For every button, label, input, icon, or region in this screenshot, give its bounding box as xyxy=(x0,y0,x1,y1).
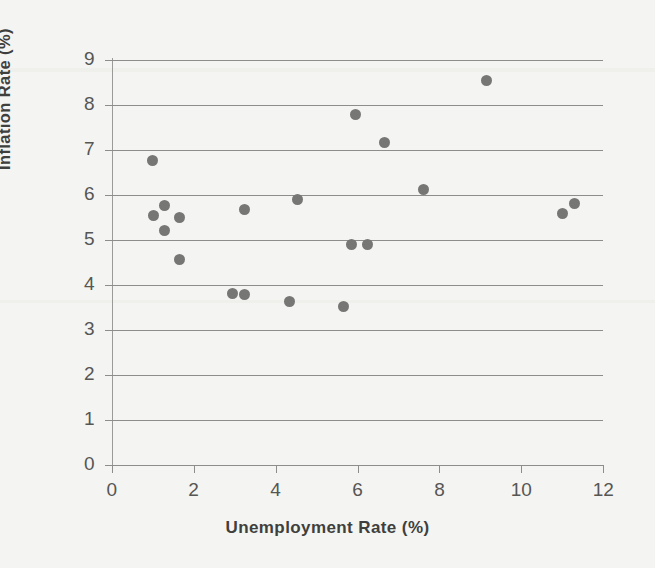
y-tick-label: 9 xyxy=(67,48,95,70)
data-point xyxy=(379,137,390,148)
gridline-y-4 xyxy=(112,285,604,286)
data-point xyxy=(239,289,250,300)
y-tick-label: 8 xyxy=(67,93,95,115)
y-tick-label: 1 xyxy=(67,408,95,430)
y-tick-label: 0 xyxy=(67,453,95,475)
gridline-y-8 xyxy=(112,105,604,106)
y-tick-4 xyxy=(105,285,112,286)
y-tick-label: 2 xyxy=(67,363,95,385)
x-axis-title: Unemployment Rate (%) xyxy=(0,518,655,538)
x-tick-12 xyxy=(603,465,604,473)
gridline-y-5 xyxy=(112,240,604,241)
x-tick-label: 6 xyxy=(341,479,375,501)
x-tick-label: 0 xyxy=(95,479,129,501)
scatter-chart: Inflation Rate (%) 0123456789 024681012 … xyxy=(0,0,655,568)
data-point xyxy=(569,198,580,209)
y-axis-title: Inflation Rate (%) xyxy=(0,0,14,170)
x-tick-2 xyxy=(194,465,195,473)
gridline-y-9 xyxy=(112,60,604,61)
y-tick-label: 5 xyxy=(67,228,95,250)
y-tick-label: 6 xyxy=(67,183,95,205)
x-tick-8 xyxy=(439,465,440,473)
x-tick-label: 12 xyxy=(586,479,620,501)
y-tick-3 xyxy=(105,330,112,331)
x-tick-10 xyxy=(521,465,522,473)
x-tick-0 xyxy=(112,465,113,473)
y-tick-label: 7 xyxy=(67,138,95,160)
x-tick-label: 4 xyxy=(259,479,293,501)
data-point xyxy=(418,184,429,195)
gridline-y-3 xyxy=(112,330,604,331)
x-tick-label: 8 xyxy=(422,479,456,501)
x-tick-label: 10 xyxy=(504,479,538,501)
gridline-y-2 xyxy=(112,375,604,376)
plot-area xyxy=(112,60,604,465)
y-tick-2 xyxy=(105,375,112,376)
data-point xyxy=(557,208,568,219)
data-point xyxy=(481,75,492,86)
y-tick-9 xyxy=(105,60,112,61)
y-tick-8 xyxy=(105,105,112,106)
y-tick-1 xyxy=(105,420,112,421)
data-point xyxy=(174,212,185,223)
x-tick-label: 2 xyxy=(177,479,211,501)
data-point xyxy=(284,296,295,307)
data-point xyxy=(292,194,303,205)
gridline-y-6 xyxy=(112,195,604,196)
y-tick-7 xyxy=(105,150,112,151)
gridline-y-1 xyxy=(112,420,604,421)
gridline-y-7 xyxy=(112,150,604,151)
y-tick-0 xyxy=(105,465,112,466)
y-tick-6 xyxy=(105,195,112,196)
y-tick-label: 3 xyxy=(67,318,95,340)
y-tick-label: 4 xyxy=(67,273,95,295)
y-tick-5 xyxy=(105,240,112,241)
x-tick-4 xyxy=(276,465,277,473)
x-tick-6 xyxy=(358,465,359,473)
